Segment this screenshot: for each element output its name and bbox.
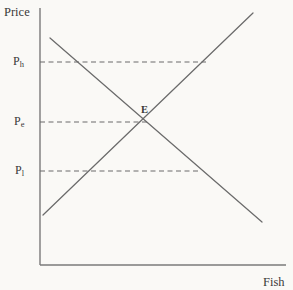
- price-equilibrium-subscript: e: [21, 119, 25, 129]
- x-axis-title: Fish: [263, 276, 285, 289]
- y-axis-title: Price: [4, 6, 30, 19]
- price-equilibrium-base: P: [14, 114, 21, 128]
- y-tick-price-equilibrium: Pe: [14, 115, 24, 127]
- y-tick-price-high: Ph: [13, 55, 24, 67]
- price-high-subscript: h: [20, 59, 24, 69]
- demand-curve: [50, 38, 262, 222]
- equilibrium-point-label: E: [141, 105, 148, 116]
- price-high-base: P: [13, 54, 20, 68]
- chart-canvas: [0, 0, 293, 290]
- price-low-subscript: l: [22, 168, 24, 178]
- supply-demand-chart: Price Fish Ph Pe Pl E: [0, 0, 293, 290]
- price-low-base: P: [15, 163, 22, 177]
- y-tick-price-low: Pl: [15, 164, 24, 176]
